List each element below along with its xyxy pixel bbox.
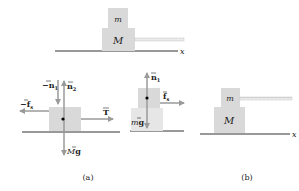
diagram-canvas: m M x −n1 n2 −fs T Mg (a) — [0, 0, 299, 191]
label-Mg: Mg — [66, 146, 81, 156]
axis-x-label: x — [180, 47, 185, 56]
rope — [240, 97, 292, 100]
label-f: fs — [163, 91, 169, 102]
center-of-mass-dot — [145, 96, 148, 99]
fbd-upper-block: n1 fs mg — [130, 72, 184, 131]
label-mg: mg — [131, 117, 145, 127]
label-T: T — [103, 107, 109, 117]
physics-diagram: m M x −n1 n2 −fs T Mg (a) — [0, 0, 299, 191]
top-figure: m M x — [55, 8, 185, 56]
label-neg-f: −fs — [20, 99, 33, 110]
label-n1: n1 — [151, 72, 160, 83]
block-M — [49, 107, 81, 131]
rope — [135, 38, 184, 41]
block-M-label: M — [223, 115, 235, 126]
center-of-mass-dot — [61, 117, 64, 120]
block-m-label: m — [226, 94, 234, 103]
block-m — [138, 88, 160, 108]
fbd-lower-block: −n1 n2 −fs T Mg (a) — [20, 80, 120, 182]
axis-x-label: x — [292, 130, 297, 139]
caption-a: (a) — [82, 173, 93, 182]
caption-b: (b) — [241, 173, 252, 182]
block-m-label: m — [114, 15, 122, 24]
figure-b: m M x (b) — [200, 88, 297, 182]
block-M-label: M — [112, 35, 124, 46]
label-n2: n2 — [67, 81, 77, 92]
label-neg-n1: −n1 — [42, 80, 58, 91]
